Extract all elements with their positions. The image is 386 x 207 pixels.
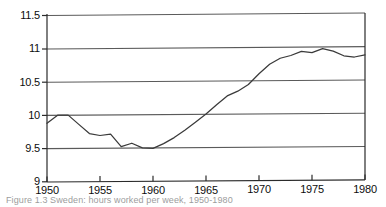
line-chart xyxy=(0,0,386,207)
y-axis-ticks xyxy=(42,16,47,182)
xtick-label-1965: 1965 xyxy=(186,184,226,196)
figure-container: 11.5 11 10.5 10 9.5 9 1950 1955 1960 196… xyxy=(0,0,386,207)
xtick-label-1975: 1975 xyxy=(292,183,332,195)
figure-caption: Figure 1.3 Sweden: hours worked per week… xyxy=(6,196,336,207)
plot-background xyxy=(47,14,365,182)
ytick-label-9.5: 9.5 xyxy=(2,142,40,154)
ytick-label-11.5: 11.5 xyxy=(2,9,40,21)
xtick-label-1980: 1980 xyxy=(345,183,385,195)
xtick-label-1960: 1960 xyxy=(133,184,173,196)
ytick-label-10: 10 xyxy=(2,109,40,121)
figure-caption-text: Figure 1.3 Sweden: hours worked per week… xyxy=(6,196,336,205)
ytick-label-10.5: 10.5 xyxy=(2,76,40,88)
xtick-label-1955: 1955 xyxy=(80,184,120,196)
xtick-label-1950: 1950 xyxy=(27,184,67,196)
ytick-label-11: 11 xyxy=(2,42,40,54)
xtick-label-1970: 1970 xyxy=(239,183,279,195)
